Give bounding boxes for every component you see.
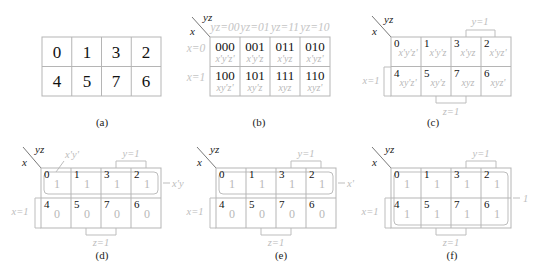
bracket-z1-c [436, 96, 466, 103]
caption-e: (e) [275, 249, 288, 262]
row-var-e: x [196, 156, 202, 168]
term-c-7: xyz [461, 77, 475, 88]
val-d-2: 1 [144, 177, 150, 191]
val-d-3: 1 [114, 177, 120, 191]
idx-f-6: 6 [484, 198, 490, 210]
row-var-d: x [21, 156, 27, 168]
bracket-label-bottom-d: z=1 [92, 237, 109, 248]
idx-c-7: 7 [454, 67, 460, 79]
val-d-4: 0 [54, 207, 60, 221]
term-b-6: xyz' [307, 82, 324, 93]
val-e-6: 0 [319, 207, 325, 221]
idx-f-0: 0 [394, 168, 400, 180]
val-f-2: 1 [494, 177, 500, 191]
val-e-5: 0 [259, 207, 265, 221]
idx-d-0: 0 [44, 168, 50, 180]
idx-e-5: 5 [249, 198, 255, 210]
term-c-2: x'yz' [488, 47, 507, 58]
val-f-7: 1 [464, 207, 470, 221]
cell-a-6: 6 [142, 72, 151, 91]
val-e-7: 0 [289, 207, 295, 221]
col-header-b-10: yz=10 [300, 21, 330, 34]
bracket-y1-f [466, 161, 496, 168]
caption-d: (d) [96, 249, 109, 262]
idx-f-1: 1 [424, 168, 430, 180]
idx-d-3: 3 [104, 168, 110, 180]
idx-d-1: 1 [74, 168, 80, 180]
row-var-b: x [189, 25, 195, 37]
caption-a: (a) [96, 116, 109, 129]
idx-d-4: 4 [44, 198, 50, 210]
term-c-5: xy'z [430, 77, 446, 88]
caption-f: (f) [447, 249, 458, 262]
term-c-4: xy'z' [398, 77, 417, 88]
cell-b-100: 100 [215, 68, 235, 83]
term-b-0: x'y'z' [214, 53, 235, 64]
bracket-label-top-f: y=1 [472, 148, 490, 159]
bracket-label-bottom-f: z=1 [442, 237, 459, 248]
panel-e: yz x y=1 x=1 z=1 x' 0 1 3 2 1 1 1 1 4 5 … [186, 143, 355, 262]
cell-b-000: 000 [215, 39, 235, 54]
bracket-label-top-c: y=1 [471, 16, 489, 27]
row-var-f: x [371, 156, 377, 168]
result-label-e: x' [346, 178, 355, 189]
group-arrow-d [56, 161, 64, 172]
cell-a-2: 2 [142, 43, 151, 62]
idx-c-6: 6 [484, 67, 490, 79]
result-label-f: 1 [523, 193, 528, 204]
bracket-y1-c [466, 30, 495, 37]
val-f-5: 1 [434, 207, 440, 221]
idx-f-5: 5 [424, 198, 430, 210]
idx-e-1: 1 [249, 168, 255, 180]
bracket-z1-e [261, 228, 291, 235]
cell-b-010: 010 [305, 39, 325, 54]
bracket-label-top-e: y=1 [297, 148, 315, 159]
bracket-label-left-d: x=1 [11, 206, 29, 217]
term-b-2: x'yz' [305, 53, 324, 64]
bracket-x1-d [35, 198, 41, 228]
term-b-7: xyz [278, 82, 292, 93]
bracket-x1-e [210, 198, 216, 228]
col-var-e: yz [209, 143, 220, 155]
val-e-2: 1 [319, 177, 325, 191]
bracket-label-left-f: x=1 [361, 206, 379, 217]
term-b-3: x'yz [277, 53, 293, 64]
bracket-label-left-c: x=1 [362, 75, 380, 86]
term-b-4: xy'z' [215, 82, 234, 93]
val-f-6: 1 [494, 207, 500, 221]
bracket-y1-d [116, 161, 146, 168]
val-d-6: 0 [144, 207, 150, 221]
panel-d: yz x x'y' y=1 x=1 z=1 x'y 0 1 3 2 1 1 1 [11, 143, 184, 262]
val-f-3: 1 [464, 177, 470, 191]
col-header-b-11: yz=11 [270, 21, 299, 34]
val-e-0: 1 [229, 177, 235, 191]
col-var-c: yz [383, 13, 394, 25]
idx-f-7: 7 [454, 198, 460, 210]
term-b-5: xy'z [247, 82, 263, 93]
idx-e-7: 7 [279, 198, 285, 210]
cell-a-3: 3 [112, 43, 121, 62]
row-header-b-0: x=0 [186, 42, 206, 54]
idx-e-3: 3 [279, 168, 285, 180]
caption-b: (b) [253, 116, 266, 129]
cell-a-1: 1 [83, 43, 92, 62]
val-f-4: 1 [404, 207, 410, 221]
term-c-1: x'y'z [428, 47, 446, 58]
cell-b-011: 011 [275, 39, 294, 54]
caption-c: (c) [427, 116, 440, 129]
idx-d-6: 6 [134, 198, 140, 210]
term-c-6: xyz' [490, 77, 507, 88]
bracket-y1-e [291, 161, 321, 168]
cell-a-4: 4 [53, 72, 62, 91]
term-c-3: x'yz [460, 47, 476, 58]
idx-e-2: 2 [309, 168, 315, 180]
val-d-7: 0 [114, 207, 120, 221]
val-d-0: 1 [54, 177, 60, 191]
cell-b-110: 110 [305, 68, 324, 83]
col-var-f: yz [384, 143, 395, 155]
idx-e-0: 0 [219, 168, 225, 180]
bracket-label-bottom-c: z=1 [442, 106, 459, 117]
val-e-4: 0 [229, 207, 235, 221]
col-header-b-00: yz=00 [210, 21, 240, 34]
cell-b-001: 001 [245, 39, 265, 54]
